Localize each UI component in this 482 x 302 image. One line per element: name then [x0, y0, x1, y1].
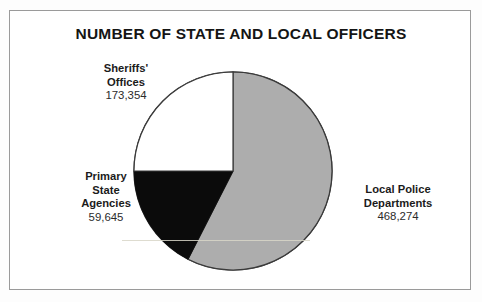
pie-label-sheriffs-offices-line2: Offices: [78, 76, 174, 90]
chart-title: NUMBER OF STATE AND LOCAL OFFICERS: [0, 25, 482, 43]
pie-label-sheriffs-offices: Sheriffs' Offices 173,354: [78, 62, 174, 103]
pie-label-local-police-departments-line2: Departments: [337, 197, 459, 211]
pie-label-sheriffs-offices-line1: Sheriffs': [78, 62, 174, 76]
pie-label-local-police-departments: Local Police Departments 468,274: [337, 183, 459, 224]
pie-label-primary-state-agencies: Primary State Agencies 59,645: [58, 170, 154, 225]
pie-label-local-police-departments-line1: Local Police: [337, 183, 459, 197]
pie-value-primary-state-agencies: 59,645: [58, 211, 154, 225]
pie-value-sheriffs-offices: 173,354: [78, 89, 174, 103]
pie-label-primary-state-agencies-line1: Primary: [58, 170, 154, 184]
pie-value-local-police-departments: 468,274: [337, 210, 459, 224]
pie-chart-figure: NUMBER OF STATE AND LOCAL OFFICERS Sheri…: [0, 0, 482, 302]
scan-line-artifact: [122, 240, 310, 241]
pie-label-primary-state-agencies-line3: Agencies: [58, 197, 154, 211]
pie-label-primary-state-agencies-line2: State: [58, 184, 154, 198]
